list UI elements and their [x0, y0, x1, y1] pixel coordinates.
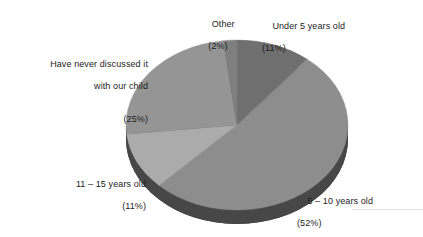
- pie-label-11-15-percent: (11%): [18, 201, 146, 212]
- pie-label-never-percent: (25%): [8, 114, 148, 125]
- pie-label-other-text: Other: [212, 19, 235, 29]
- pie-label-under-5-text: Under 5 years old: [272, 21, 345, 31]
- pie-label-have-never-discussed: Have never discussed it with our child (…: [8, 48, 148, 147]
- pie-label-11-15-text: 11 – 15 years old: [76, 179, 146, 189]
- pie-label-5-10-percent: (52%): [297, 218, 417, 229]
- pie-label-never-text-line2: with our child: [8, 81, 148, 92]
- pie-label-under-5-percent: (11%): [262, 43, 372, 54]
- pie-label-other-percent: (2%): [183, 41, 253, 52]
- bottom-divider-rule: [352, 209, 423, 210]
- pie-label-other: Other (2%): [183, 8, 253, 74]
- pie-label-5-10-text: 5 – 10 years old: [307, 196, 373, 206]
- pie-chart-figure: Other (2%) Under 5 years old (11%) Have …: [0, 0, 423, 237]
- pie-label-under-5-years-old: Under 5 years old (11%): [262, 10, 372, 76]
- pie-label-5-10-years-old: 5 – 10 years old (52%): [297, 185, 417, 237]
- pie-label-never-text-line1: Have never discussed it: [50, 59, 148, 69]
- pie-label-11-15-years-old: 11 – 15 years old (11%): [18, 168, 146, 234]
